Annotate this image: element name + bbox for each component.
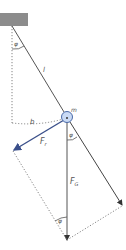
label-restoring-force: Fr [40, 137, 48, 147]
label-length: l [43, 66, 45, 74]
label-angle-top: φ [14, 40, 18, 48]
label-angle-mid: φ [69, 131, 73, 139]
tension-component-vector [70, 122, 122, 205]
ceiling-block [0, 13, 28, 26]
mass-center-dot [66, 117, 68, 119]
label-angle-bottom: φ [58, 217, 62, 225]
label-arc-b: b [30, 118, 35, 126]
restoring-force-vector [14, 120, 64, 150]
arc-path-b [12, 119, 63, 124]
parallelogram-side-left [13, 151, 67, 240]
label-gravity-force: FG [70, 177, 79, 187]
parallelogram-side-right [67, 206, 122, 240]
label-mass: m [71, 106, 77, 113]
pendulum-rope [12, 26, 64, 112]
pendulum-diagram: φ l m b Fr φ FG φ [0, 0, 126, 250]
